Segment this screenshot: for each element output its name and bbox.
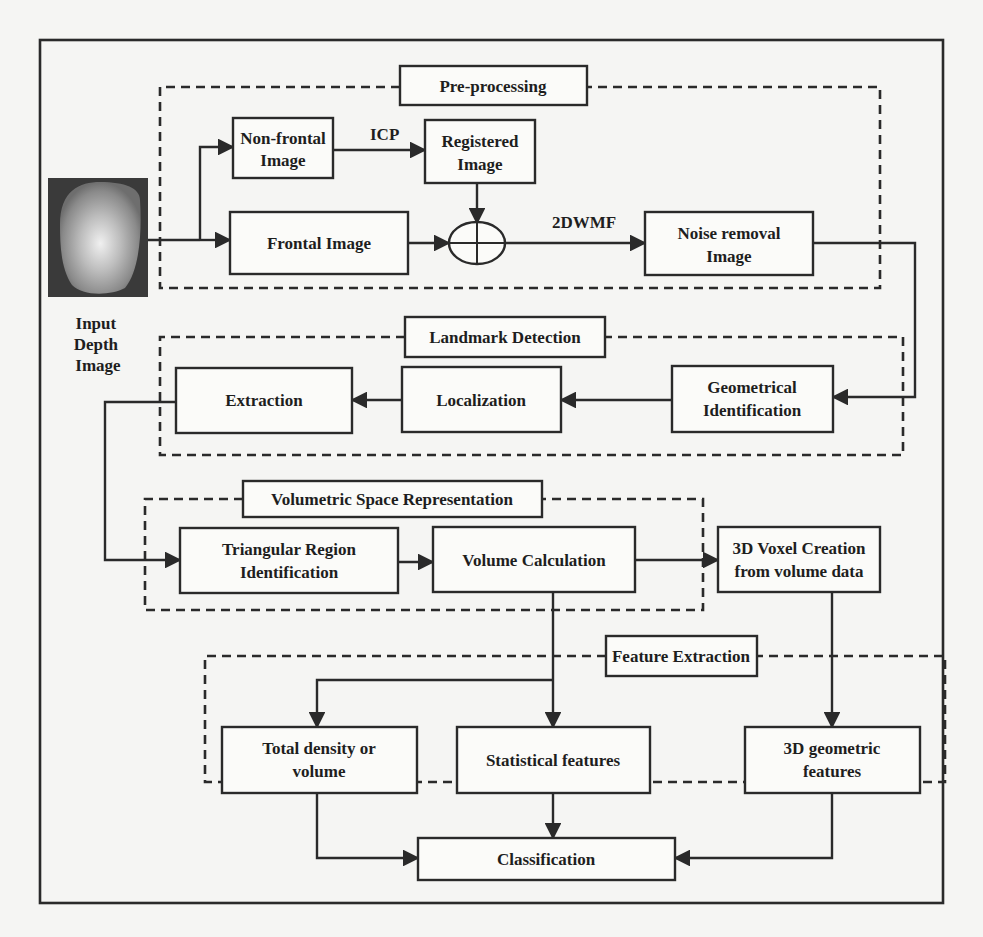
node-registered-image: RegisteredImage (425, 120, 535, 183)
svg-text:Statistical features: Statistical features (486, 751, 621, 770)
wire-density-class (317, 793, 418, 858)
node-localization: Localization (402, 367, 561, 432)
preprocessing-label: Pre-processing (400, 66, 587, 105)
node-extraction: Extraction (176, 368, 352, 433)
node-geometrical-identification: GeometricalIdentification (672, 366, 833, 432)
flow-diagram: Input Depth Image Pre-processing Landmar… (0, 0, 983, 937)
wire-ext-triangular (105, 402, 180, 560)
node-non-frontal-image: Non-frontalImage (233, 118, 333, 178)
input-depth-image (48, 178, 148, 297)
2dwmf-label: 2DWMF (552, 213, 616, 232)
svg-text:Volume Calculation: Volume Calculation (462, 551, 606, 570)
node-frontal-image: Frontal Image (230, 212, 408, 274)
node-3d-voxel-creation: 3D Voxel Creationfrom volume data (718, 527, 880, 592)
summing-junction-icon (449, 222, 505, 264)
svg-text:Landmark Detection: Landmark Detection (429, 328, 581, 347)
depth-face-icon (60, 182, 141, 294)
input-label: Input Depth Image (74, 314, 123, 375)
svg-text:Volumetric Space Representatio: Volumetric Space Representation (271, 490, 513, 509)
wire-to-nonfrontal (200, 147, 233, 240)
svg-text:Feature Extraction: Feature Extraction (612, 647, 751, 666)
node-3d-geometric-features: 3D geometricfeatures (745, 727, 920, 793)
svg-text:Localization: Localization (436, 391, 526, 410)
icp-label: ICP (370, 125, 399, 144)
node-statistical-features: Statistical features (457, 727, 650, 793)
svg-text:Classification: Classification (497, 850, 596, 869)
volumetric-space-label: Volumetric Space Representation (243, 481, 542, 517)
node-triangular-region-identification: Triangular RegionIdentification (180, 528, 398, 593)
svg-text:Frontal Image: Frontal Image (267, 234, 371, 253)
node-volume-calculation: Volume Calculation (433, 527, 635, 592)
node-total-density-or-volume: Total density orvolume (222, 727, 417, 793)
feature-extraction-label: Feature Extraction (606, 636, 757, 676)
wire-vol-density (317, 680, 553, 727)
node-noise-removal-image: Noise removalImage (645, 212, 813, 275)
landmark-detection-label: Landmark Detection (405, 317, 605, 357)
wire-geo-class (675, 793, 832, 858)
diagram-page: Input Depth Image Pre-processing Landmar… (0, 0, 983, 937)
svg-text:Pre-processing: Pre-processing (439, 77, 547, 96)
svg-text:Extraction: Extraction (225, 391, 303, 410)
node-classification: Classification (418, 838, 675, 880)
